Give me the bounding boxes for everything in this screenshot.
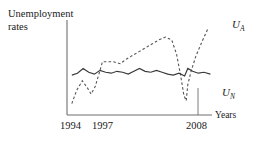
series-line-u-a <box>72 29 208 104</box>
series-label-u-n-sub: N <box>230 92 235 101</box>
series-label-u-a-sub: A <box>240 24 245 33</box>
x-tick-label-2008: 2008 <box>186 120 207 131</box>
chart-canvas <box>0 0 260 155</box>
x-tick-label-1994: 1994 <box>60 120 81 131</box>
series-label-u-n-base: U <box>222 86 230 98</box>
x-axis-title: Years <box>215 110 236 120</box>
series-label-u-a-base: U <box>232 18 240 30</box>
series-label-u-a: UA <box>232 18 245 33</box>
series-label-u-n: UN <box>222 86 235 101</box>
x-tick-label-1997: 1997 <box>92 120 113 131</box>
series-line-u-n <box>72 68 211 76</box>
